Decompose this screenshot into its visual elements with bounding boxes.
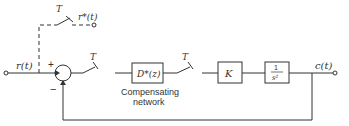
output-terminal	[333, 71, 337, 75]
sampler-input-dashed-label: T	[56, 4, 63, 14]
sampler-input-dashed-mark	[66, 16, 73, 22]
sampled-input-terminal	[92, 23, 96, 27]
sampler-after-compensator-label: T	[182, 52, 189, 62]
sampler-error-label: T	[90, 52, 97, 62]
input-terminal	[4, 71, 8, 75]
compensator-caption-line1: Compensating	[121, 87, 179, 97]
output-label: c(t)	[315, 60, 333, 71]
input-label: r(t)	[16, 60, 33, 71]
plus-sign: +	[48, 59, 54, 70]
block-diagram: r(t) r*(t) T + − T T D*(z) Compensating …	[0, 0, 349, 126]
sampled-input-label: r*(t)	[78, 12, 98, 22]
sampler-input-dashed-switch	[57, 18, 70, 25]
compensator-caption-line2: network	[133, 97, 165, 107]
input-arrow	[55, 70, 60, 76]
plant-denominator: s²	[272, 74, 279, 82]
gain-label: K	[224, 68, 233, 79]
minus-sign: −	[50, 83, 56, 95]
plant-numerator: 1	[274, 64, 278, 71]
sampler-after-compensator-switch	[177, 67, 190, 73]
compensator-label: D*(z)	[136, 69, 161, 79]
sampler-error-switch	[83, 67, 95, 73]
